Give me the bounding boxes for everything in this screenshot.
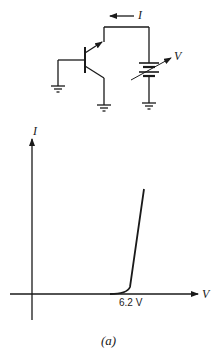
- breakdown-voltage-label: 6.2 V: [119, 298, 142, 308]
- y-axis-label: I: [33, 125, 37, 137]
- ground-icon-collector: [97, 105, 111, 111]
- iv-curve: [110, 189, 144, 294]
- ground-icon-source: [142, 103, 156, 109]
- current-label: I: [138, 9, 142, 21]
- x-axis-label: V: [202, 288, 209, 300]
- variable-voltage-source-icon: [131, 27, 171, 103]
- figure-caption: (a): [101, 334, 116, 347]
- ground-icon-base: [51, 86, 65, 92]
- transistor-icon: [58, 27, 149, 105]
- source-voltage-label: V: [174, 50, 181, 62]
- figure-canvas: [0, 0, 219, 354]
